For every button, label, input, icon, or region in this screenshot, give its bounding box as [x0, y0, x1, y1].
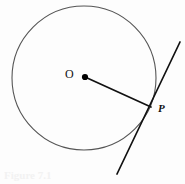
tangent-line [117, 42, 180, 174]
center-point-label-o: O [65, 68, 74, 80]
geometry-figure: O P Figure 7.1 [0, 0, 185, 184]
figure-caption: Figure 7.1 [4, 170, 51, 182]
radius-segment-op [85, 77, 151, 107]
geometry-canvas [0, 0, 185, 184]
tangent-point-label-p: P [158, 103, 165, 114]
center-point-dot [82, 74, 88, 80]
